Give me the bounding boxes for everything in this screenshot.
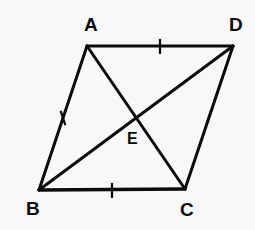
vertex-label-D: D	[229, 15, 243, 34]
vertex-label-C: C	[180, 200, 194, 219]
vertex-label-A: A	[84, 15, 98, 34]
diagonal-BD	[39, 46, 233, 190]
geometry-figure: A D B C E	[0, 0, 255, 230]
point-label-E: E	[127, 131, 138, 147]
figure-canvas	[0, 0, 255, 230]
vertex-label-B: B	[26, 199, 40, 218]
